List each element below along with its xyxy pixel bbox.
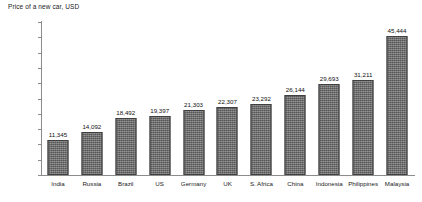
category-slot: UK bbox=[211, 0, 245, 202]
x-axis-category-label: Malaysia bbox=[385, 180, 409, 187]
category-slot: Malaysia bbox=[380, 0, 414, 202]
x-axis-category-label: S. Africa bbox=[250, 180, 273, 187]
x-axis-category-label: US bbox=[155, 180, 164, 187]
category-slot: China bbox=[278, 0, 312, 202]
x-axis-category-label: India bbox=[51, 180, 64, 187]
category-slot: Russia bbox=[75, 0, 109, 202]
x-axis-category-label: Russia bbox=[82, 180, 101, 187]
category-slot: S. Africa bbox=[244, 0, 278, 202]
x-axis-category-label: UK bbox=[223, 180, 232, 187]
category-slot: Brazil bbox=[109, 0, 143, 202]
category-slot: Philippines bbox=[346, 0, 380, 202]
x-axis-category-label: Brazil bbox=[118, 180, 133, 187]
bar-chart: Price of a new car, USD 05,00010,00015,0… bbox=[0, 0, 422, 202]
category-slot: Indonesia bbox=[312, 0, 346, 202]
x-axis-category-label: China bbox=[287, 180, 303, 187]
category-slot: Germany bbox=[177, 0, 211, 202]
x-axis-category-label: Philippines bbox=[348, 180, 378, 187]
x-axis-categories: IndiaRussiaBrazilUSGermanyUKS. AfricaChi… bbox=[41, 0, 414, 202]
x-axis-category-label: Germany bbox=[181, 180, 206, 187]
x-axis-category-label: Indonesia bbox=[316, 180, 343, 187]
category-slot: US bbox=[143, 0, 177, 202]
category-slot: India bbox=[41, 0, 75, 202]
